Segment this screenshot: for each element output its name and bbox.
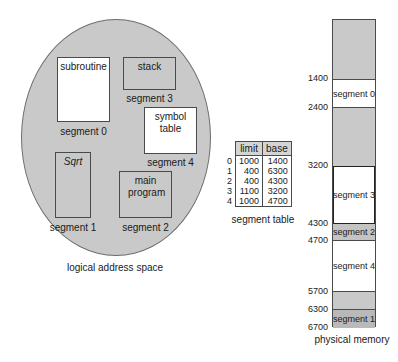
main-program-label: main program xyxy=(128,175,165,198)
memory-free-block xyxy=(333,108,375,166)
address-label: 5700 xyxy=(298,286,328,296)
subroutine-box: subroutine xyxy=(57,57,110,122)
symbol-table-box: symbol table xyxy=(144,107,197,154)
memory-segment-0: segment 0 xyxy=(333,79,375,108)
sqrt-label: Sqrt xyxy=(64,156,82,167)
memory-segment-0-label: segment 0 xyxy=(333,89,375,99)
stack-box: stack xyxy=(123,57,176,90)
row-index: 1 xyxy=(224,166,236,176)
limit-cell: 1100 xyxy=(236,186,263,196)
limit-cell: 1000 xyxy=(236,196,263,207)
row-index: 3 xyxy=(224,186,236,196)
base-cell: 4700 xyxy=(263,196,292,207)
table-row: 0 1000 1400 xyxy=(224,156,291,167)
limit-header: limit xyxy=(236,142,263,156)
symbol-table-label: symbol table xyxy=(155,111,187,134)
address-label: 4700 xyxy=(298,235,328,245)
memory-segment-4-label: segment 4 xyxy=(333,261,375,271)
memory-segment-4: segment 4 xyxy=(333,241,375,292)
base-cell: 3200 xyxy=(263,186,292,196)
address-label: 6300 xyxy=(298,304,328,314)
memory-segment-2: segment 2 xyxy=(333,224,375,241)
physical-memory-column: segment 0 segment 3 segment 2 segment 4 … xyxy=(332,19,376,327)
segment-table-caption: segment table xyxy=(226,214,300,225)
table-row: 4 1000 4700 xyxy=(224,196,291,207)
memory-segment-2-label: segment 2 xyxy=(333,227,375,237)
limit-cell: 400 xyxy=(236,166,263,176)
table-row: 2 400 4300 xyxy=(224,176,291,186)
row-index: 2 xyxy=(224,176,236,186)
logical-address-space-caption: logical address space xyxy=(40,262,190,273)
memory-segment-1-label: segment 1 xyxy=(333,314,375,324)
segment-table: limit base 0 1000 1400 1 400 6300 2 400 … xyxy=(224,141,292,207)
memory-free-block xyxy=(333,20,375,79)
table-row: 1 400 6300 xyxy=(224,166,291,176)
base-header: base xyxy=(263,142,292,156)
limit-cell: 1000 xyxy=(236,156,263,167)
sqrt-box: Sqrt xyxy=(55,152,91,218)
segment-0-label: segment 0 xyxy=(57,126,110,137)
address-label: 2400 xyxy=(298,102,328,112)
memory-segment-3: segment 3 xyxy=(333,166,375,224)
address-label: 1400 xyxy=(298,73,328,83)
row-index: 4 xyxy=(224,196,236,207)
stack-label: stack xyxy=(138,61,161,72)
segment-4-label: segment 4 xyxy=(144,157,197,168)
segment-3-label: segment 3 xyxy=(123,93,176,104)
table-corner xyxy=(224,142,236,156)
row-index: 0 xyxy=(224,156,236,167)
memory-segment-3-label: segment 3 xyxy=(333,190,375,200)
memory-free-block xyxy=(333,292,375,310)
main-program-box: main program xyxy=(119,171,172,218)
physical-memory-caption: physical memory xyxy=(310,334,394,345)
address-label: 3200 xyxy=(298,160,328,170)
segment-2-label: segment 2 xyxy=(119,222,172,233)
base-cell: 4300 xyxy=(263,176,292,186)
address-label: 4300 xyxy=(298,218,328,228)
base-cell: 1400 xyxy=(263,156,292,167)
limit-cell: 400 xyxy=(236,176,263,186)
table-row: 3 1100 3200 xyxy=(224,186,291,196)
memory-segment-1: segment 1 xyxy=(333,310,375,328)
subroutine-label: subroutine xyxy=(60,61,107,72)
segment-1-label: segment 1 xyxy=(45,222,101,233)
address-label: 6700 xyxy=(298,322,328,332)
base-cell: 6300 xyxy=(263,166,292,176)
